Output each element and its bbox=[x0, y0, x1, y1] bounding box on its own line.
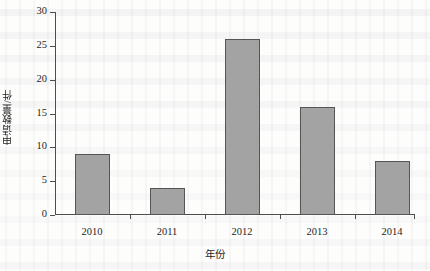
y-axis-tick bbox=[50, 181, 55, 182]
y-axis-tick-label: 30 bbox=[15, 5, 47, 16]
plot-area: 051015202530 20102011201220132014 bbox=[55, 12, 415, 215]
x-axis-tick bbox=[355, 215, 356, 219]
y-axis-tick-label: 15 bbox=[15, 107, 47, 118]
x-axis-tick-label: 2014 bbox=[382, 226, 403, 237]
x-axis-title: 年份 bbox=[0, 246, 430, 261]
bar bbox=[375, 161, 410, 215]
x-axis-tick-label: 2010 bbox=[82, 226, 103, 237]
x-axis-end-tick bbox=[414, 215, 415, 219]
y-axis-tick-label: 10 bbox=[15, 140, 47, 151]
x-axis-tick-label: 2011 bbox=[157, 226, 178, 237]
y-axis-tick-label: 25 bbox=[15, 39, 47, 50]
bar bbox=[150, 188, 185, 215]
y-axis-tick bbox=[50, 147, 55, 148]
x-axis-tick bbox=[205, 215, 206, 219]
y-axis-tick bbox=[50, 215, 55, 216]
y-axis-tick-label: 20 bbox=[15, 73, 47, 84]
x-axis-tick-label: 2012 bbox=[232, 226, 253, 237]
y-axis-tick bbox=[50, 46, 55, 47]
y-axis-tick-label: 0 bbox=[15, 208, 47, 219]
x-axis-tick-label: 2013 bbox=[307, 226, 328, 237]
y-axis-tick bbox=[50, 114, 55, 115]
bar bbox=[75, 154, 110, 215]
x-axis-tick bbox=[280, 215, 281, 219]
y-axis-spine bbox=[55, 12, 56, 215]
bar bbox=[300, 107, 335, 215]
y-axis-tick bbox=[50, 80, 55, 81]
y-axis-tick-label: 5 bbox=[15, 174, 47, 185]
bar bbox=[225, 39, 260, 215]
y-axis-tick bbox=[50, 12, 55, 13]
x-axis-tick bbox=[130, 215, 131, 219]
bar-chart-figure: 申请数量/件 051015202530 20102011201220132014… bbox=[0, 0, 430, 271]
